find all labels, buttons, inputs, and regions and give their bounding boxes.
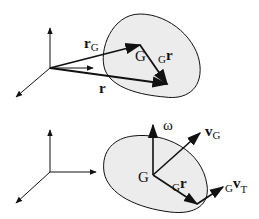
- bottom-panel: ω vG G Gr GvT: [16, 117, 247, 213]
- top-panel: rG G Gr r: [16, 14, 200, 98]
- axis-y-bottom: [16, 172, 50, 203]
- label-G-bottom: G: [138, 169, 149, 185]
- label-GvT: GvT: [225, 175, 247, 195]
- label-omega: ω: [163, 117, 173, 133]
- label-rG: rG: [84, 35, 99, 53]
- rigid-body-diagram: rG G Gr r ω vG G Gr: [0, 0, 259, 219]
- label-G-top: G: [135, 48, 146, 64]
- label-vG: vG: [205, 123, 221, 141]
- axis-y-top: [16, 68, 50, 97]
- reference-axes-bottom: [16, 130, 96, 203]
- label-r: r: [99, 80, 106, 96]
- reference-axes-top: [16, 28, 93, 97]
- rigid-body-top: [103, 14, 200, 98]
